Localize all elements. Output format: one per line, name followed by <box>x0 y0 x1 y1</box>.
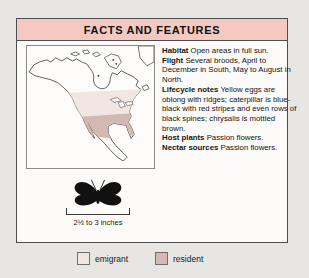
wingspan-label: 2½ to 3 inches <box>46 218 150 227</box>
fact-nectar-sources: Nectar sources Passion flowers. <box>162 143 298 153</box>
fact-label: Host plants <box>162 133 204 142</box>
butterfly-wing-right <box>98 182 121 206</box>
fact-flight: Flight Several broods, April to December… <box>162 56 298 85</box>
north-america-map <box>27 46 154 168</box>
facts-card: FACTS AND FEATURES <box>16 18 288 243</box>
fact-host-plants: Host plants Passion flowers. <box>162 133 298 143</box>
page-title: FACTS AND FEATURES <box>84 24 221 36</box>
resident-swatch <box>155 252 168 265</box>
fact-text: Passion flowers. <box>207 133 264 142</box>
card-header: FACTS AND FEATURES <box>17 19 287 41</box>
fact-lifecycle: Lifecycle notes Yellow eggs are oblong w… <box>162 85 298 134</box>
emigrant-swatch <box>77 252 90 265</box>
facts-list: Habitat Open areas in full sun. Flight S… <box>162 46 298 153</box>
fact-label: Flight <box>162 56 183 65</box>
legend-item-emigrant: emigrant <box>77 252 128 265</box>
range-map-box <box>26 45 155 169</box>
emigrant-region <box>27 89 154 121</box>
fact-text: Passion flowers. <box>221 143 278 152</box>
legend-label: emigrant <box>95 254 128 264</box>
fact-label: Lifecycle notes <box>162 85 218 94</box>
fact-text: Open areas in full sun. <box>191 46 269 55</box>
page: { "header": { "title": "FACTS AND FEATUR… <box>0 0 309 278</box>
fact-label: Habitat <box>162 46 188 55</box>
wingspan-bracket <box>66 208 130 215</box>
butterfly-body <box>96 190 100 204</box>
map-legend: emigrant resident <box>0 252 309 268</box>
butterfly-wing-left <box>75 182 98 206</box>
legend-label: resident <box>173 254 203 264</box>
greenland <box>138 46 154 66</box>
legend-item-resident: resident <box>155 252 203 265</box>
fact-label: Nectar sources <box>162 143 218 152</box>
fact-habitat: Habitat Open areas in full sun. <box>162 46 298 56</box>
